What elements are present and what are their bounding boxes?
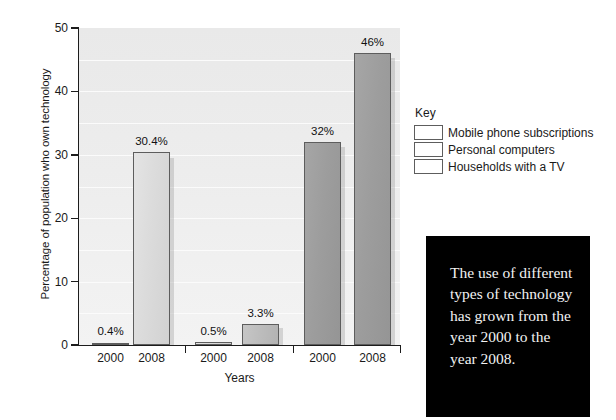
y-tick-label-40: 40 <box>14 84 68 98</box>
gridline-15 <box>79 250 400 251</box>
bar-mobile-2000 <box>92 343 129 346</box>
legend-item-personal-computers: Personal computers <box>414 141 614 158</box>
y-tick-label-0: 0 <box>14 338 68 352</box>
legend-item-households-with-a-tv: Households with a TV <box>414 158 614 175</box>
bar-pc-2000 <box>195 342 232 345</box>
bar-mobile-2008 <box>133 152 170 345</box>
x-axis-line <box>78 345 401 346</box>
gridline-40 <box>79 91 400 92</box>
legend-item-mobile-phone-subscriptions: Mobile phone subscriptions <box>414 124 614 141</box>
bar-tv-2000 <box>304 142 341 345</box>
y-tick-label-50: 50 <box>14 21 68 35</box>
legend-label-tv: Households with a TV <box>448 160 565 174</box>
callout-box: The use of different types of technology… <box>426 236 590 417</box>
bar-value-tv-2008: 46% <box>332 36 413 48</box>
y-axis-title: Percentage of population who own technol… <box>39 19 51 349</box>
bar-value-pc-2008: 3.3% <box>220 307 301 319</box>
legend-label-mobile: Mobile phone subscriptions <box>448 126 593 140</box>
callout-text: The use of different types of technology… <box>450 262 574 369</box>
gridline-45 <box>79 60 400 61</box>
bar-chart-figure: Percentage of population who own technol… <box>0 0 410 400</box>
y-tick-label-20: 20 <box>14 211 68 225</box>
gridline-35 <box>79 123 400 124</box>
legend-label-pc: Personal computers <box>448 143 555 157</box>
bar-value-tv-2000: 32% <box>282 125 363 137</box>
legend-swatch-icon-mobile <box>414 125 443 140</box>
gridline-25 <box>79 187 400 188</box>
x-tick-label-5: 2008 <box>332 351 413 365</box>
y-tick-label-30: 30 <box>14 148 68 162</box>
gridline-20 <box>79 218 400 219</box>
bar-value-mobile-2008: 30.4% <box>111 135 192 147</box>
y-axis-line <box>78 27 79 346</box>
bar-pc-2008 <box>242 324 279 345</box>
gridline-30 <box>79 155 400 156</box>
bar-tv-2008 <box>354 53 391 345</box>
gridline-10 <box>79 282 400 283</box>
chart-legend: Key Mobile phone subscriptions Personal … <box>414 106 614 175</box>
plot-area <box>79 28 400 345</box>
legend-swatch-icon-tv <box>414 159 443 174</box>
legend-swatch-icon-pc <box>414 142 443 157</box>
legend-title: Key <box>414 106 614 120</box>
y-tick-label-10: 10 <box>14 275 68 289</box>
x-axis-title: Years <box>79 371 400 385</box>
